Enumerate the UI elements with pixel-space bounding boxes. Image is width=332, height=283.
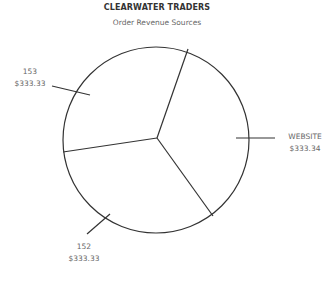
slice-label-website: WEBSITE $333.34 <box>280 131 330 155</box>
slice-value: $333.33 <box>8 78 52 90</box>
slice-label-152: 152 $333.33 <box>62 241 106 265</box>
slice-value: $333.34 <box>280 143 330 155</box>
slice-value: $333.33 <box>62 253 106 265</box>
slice-name: WEBSITE <box>280 131 330 143</box>
slice-label-153: 153 $333.33 <box>8 66 52 90</box>
slice-name: 152 <box>62 241 106 253</box>
pie-outline <box>63 47 249 233</box>
slice-name: 153 <box>8 66 52 78</box>
leader-line-152 <box>87 214 110 234</box>
